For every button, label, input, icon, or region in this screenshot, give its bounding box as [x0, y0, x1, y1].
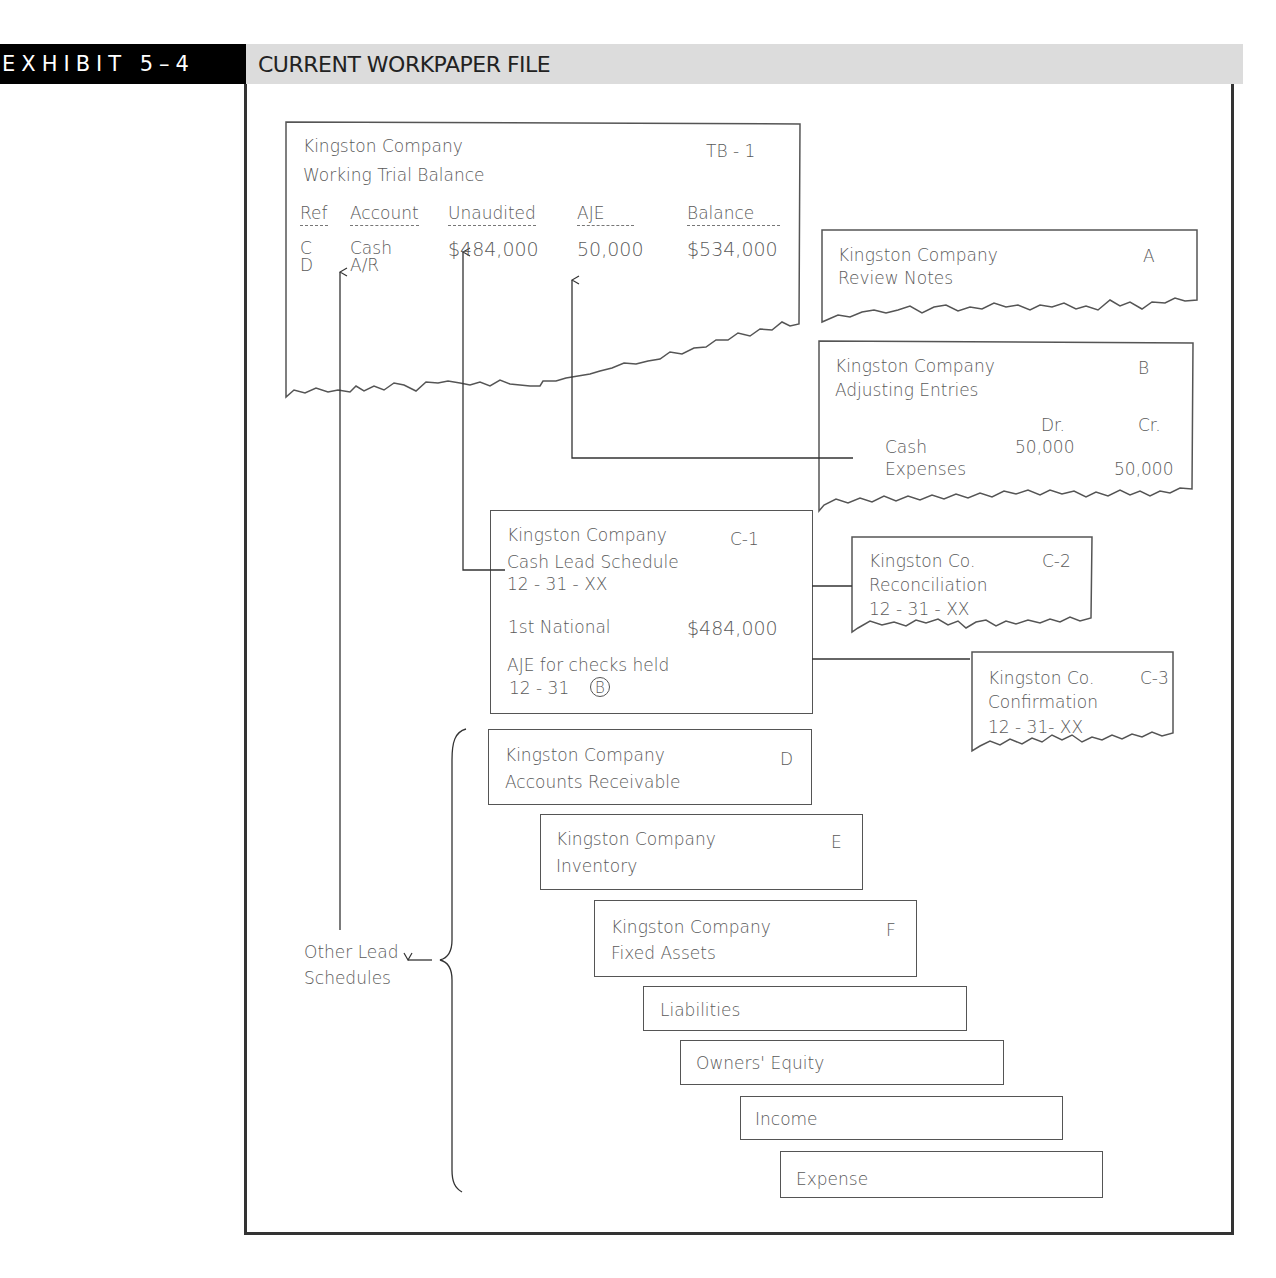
adjusting-entry1-dr: 50,000	[1015, 439, 1074, 456]
reconciliation-company: Kingston Co.	[869, 553, 975, 570]
lead-f-title: Fixed Assets	[611, 945, 716, 962]
cash-lead-company: Kingston Company	[507, 527, 667, 544]
tb-row2-ref: D	[300, 257, 313, 274]
reconciliation-date: 12 - 31 - XX	[869, 601, 969, 618]
tb-col-ref: Ref	[300, 205, 328, 226]
cash-lead-date: 12 - 31 - XX	[507, 576, 607, 593]
tb-row-balance: $534,000	[687, 240, 778, 259]
curly-brace	[440, 729, 466, 1192]
reconciliation-title: Reconciliation	[869, 577, 988, 594]
tb-row-aje: 50,000	[577, 240, 643, 259]
lead-d-company: Kingston Company	[505, 747, 665, 764]
other-lead-label-line1: Other Lead	[304, 944, 399, 961]
cash-lead-line-amount: $484,000	[687, 619, 778, 638]
adjusting-entry2-account: Expenses	[885, 461, 966, 478]
confirmation-ref: C-3	[1140, 670, 1169, 687]
review-notes-title: Review Notes	[838, 270, 953, 287]
lead-f-company: Kingston Company	[611, 919, 771, 936]
adjusting-dr-label: Dr.	[1041, 417, 1065, 434]
cash-lead-title: Cash Lead Schedule	[507, 554, 679, 571]
adjusting-company: Kingston Company	[835, 358, 995, 375]
other-lead-label-line2: Schedules	[304, 970, 391, 987]
diagram-lines	[0, 0, 1276, 1278]
tb-row2-account: A/R	[350, 257, 379, 274]
cash-lead-ref: C-1	[730, 531, 759, 548]
lead-d-ref: D	[780, 751, 793, 768]
tb-row-unaudited: $484,000	[448, 240, 539, 259]
lead-owners-equity-title: Owners' Equity	[696, 1055, 824, 1072]
tb-col-account: Account	[350, 205, 419, 226]
cash-lead-aje-ref-circle: B	[590, 677, 610, 697]
adjusting-ref: B	[1138, 360, 1149, 377]
lead-e-ref: E	[831, 834, 842, 851]
tb-col-balance: Balance	[687, 205, 780, 226]
tb-ref: TB - 1	[706, 143, 755, 160]
confirmation-date: 12 - 31- XX	[988, 719, 1083, 736]
tb-col-unaudited: Unaudited	[448, 205, 536, 226]
tb-col-aje: AJE	[577, 205, 634, 226]
lead-d-title: Accounts Receivable	[505, 774, 680, 791]
lead-e-company: Kingston Company	[556, 831, 716, 848]
lead-f-ref: F	[886, 922, 896, 939]
lead-e-title: Inventory	[556, 858, 637, 875]
adjusting-entry2-cr: 50,000	[1114, 461, 1173, 478]
adjusting-cr-label: Cr.	[1138, 417, 1161, 434]
lead-income-title: Income	[755, 1111, 818, 1128]
confirmation-title: Confirmation	[988, 694, 1098, 711]
tb-title: Working Trial Balance	[303, 167, 485, 184]
confirmation-company: Kingston Co.	[988, 670, 1094, 687]
tb-company: Kingston Company	[303, 138, 463, 155]
review-notes-ref: A	[1143, 248, 1155, 265]
review-notes-company: Kingston Company	[838, 247, 998, 264]
cash-lead-aje-date: 12 - 31	[509, 680, 569, 697]
reconciliation-ref: C-2	[1042, 553, 1071, 570]
lead-expense-title: Expense	[796, 1171, 868, 1188]
adjusting-entry1-account: Cash	[885, 439, 927, 456]
adjusting-title: Adjusting Entries	[835, 382, 978, 399]
cash-lead-aje-note: AJE for checks held	[507, 657, 669, 674]
lead-liabilities-title: Liabilities	[660, 1002, 740, 1019]
cash-lead-line-label: 1st National	[508, 619, 611, 636]
